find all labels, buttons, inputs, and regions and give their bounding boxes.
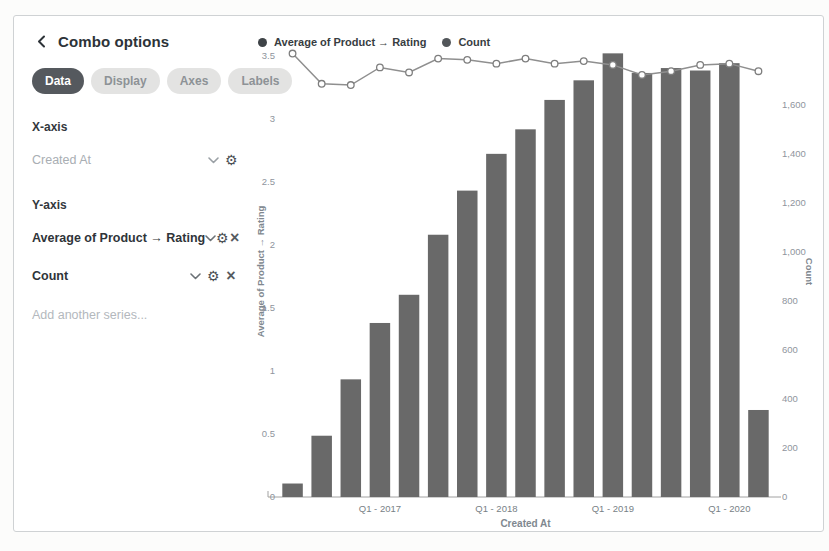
x-axis-tick: Q1 - 2018	[475, 503, 517, 514]
x-axis-tick: Q1 - 2019	[592, 503, 634, 514]
x-axis-field-value: Created At	[32, 153, 204, 167]
bar[interactable]	[399, 295, 420, 497]
legend-dot-icon	[442, 38, 451, 47]
line-marker[interactable]	[435, 55, 442, 62]
line-marker[interactable]	[726, 60, 733, 67]
right-axis-tick: 0	[782, 491, 787, 502]
bar[interactable]	[719, 63, 740, 497]
bar[interactable]	[515, 129, 536, 497]
left-axis-tick: 1	[270, 365, 275, 376]
right-axis-tick: 1,400	[782, 148, 806, 159]
sidebar-title: Combo options	[58, 33, 169, 50]
bar[interactable]	[690, 71, 711, 497]
line-marker[interactable]	[493, 60, 500, 67]
tab-display[interactable]: Display	[91, 68, 160, 94]
combo-options-sidebar: Combo options Data Display Axes Labels X…	[14, 16, 254, 531]
back-chevron-icon	[32, 32, 50, 50]
series-name: Average of Product → Rating	[32, 231, 205, 245]
bar[interactable]	[341, 379, 362, 497]
series-name: Count	[32, 269, 186, 283]
left-axis-tick: 0	[270, 491, 275, 502]
line-marker[interactable]	[551, 60, 558, 67]
tab-axes[interactable]: Axes	[167, 68, 222, 94]
right-axis-tick: 600	[782, 344, 798, 355]
line-marker[interactable]	[755, 68, 762, 75]
x-axis-tick: Q1 - 2020	[708, 503, 750, 514]
chevron-down-icon[interactable]	[186, 267, 204, 285]
legend-item-count[interactable]: Count	[442, 36, 490, 48]
bar[interactable]	[603, 53, 624, 497]
left-axis-tick: 2	[270, 239, 275, 250]
line-marker[interactable]	[406, 69, 413, 76]
bar[interactable]	[661, 68, 682, 497]
bar[interactable]	[632, 73, 653, 497]
y-axis-section-label: Y-axis	[32, 198, 244, 212]
left-axis-tick: 0.5	[262, 428, 275, 439]
y-axis-series-row[interactable]: Count ⚙ ×	[32, 264, 244, 288]
line-marker[interactable]	[347, 82, 354, 89]
bar[interactable]	[573, 80, 594, 497]
bar[interactable]	[370, 323, 391, 497]
line-marker[interactable]	[289, 50, 296, 57]
right-axis-title: Count	[804, 258, 815, 286]
bar[interactable]	[282, 484, 303, 497]
legend-item-rating[interactable]: Average of Product → Rating	[258, 36, 426, 48]
legend-label: Average of Product → Rating	[274, 36, 426, 48]
tab-data[interactable]: Data	[32, 68, 84, 94]
line-marker[interactable]	[639, 72, 646, 79]
combo-chart: Average of Product → Rating Count 00.511…	[254, 16, 825, 533]
remove-series-icon[interactable]: ×	[222, 267, 240, 285]
x-axis-title: Created At	[500, 518, 551, 529]
line-marker[interactable]	[522, 55, 529, 62]
bar[interactable]	[428, 235, 449, 497]
line-marker[interactable]	[580, 58, 587, 65]
y-axis-series-row[interactable]: Average of Product → Rating ⚙ ×	[32, 226, 244, 250]
right-axis-tick: 400	[782, 393, 798, 404]
right-axis-tick: 200	[782, 442, 798, 453]
line-marker[interactable]	[377, 64, 384, 71]
left-axis-tick: 2.5	[262, 176, 275, 187]
line-marker[interactable]	[318, 80, 325, 87]
x-axis-field-picker[interactable]: Created At ⚙	[32, 148, 244, 172]
legend-label: Count	[458, 36, 490, 48]
bar[interactable]	[544, 100, 565, 497]
chevron-down-icon[interactable]	[204, 151, 222, 169]
settings-tabs: Data Display Axes Labels	[32, 68, 244, 94]
line-marker[interactable]	[610, 62, 617, 69]
right-axis-tick: 800	[782, 295, 798, 306]
viz-settings-card: Combo options Data Display Axes Labels X…	[13, 15, 824, 532]
right-axis-tick: 1,600	[782, 99, 806, 110]
bar[interactable]	[486, 154, 507, 497]
bar[interactable]	[748, 410, 769, 497]
right-axis-tick: 1,200	[782, 197, 806, 208]
x-axis-tick: Q1 - 2017	[359, 503, 401, 514]
chevron-down-icon[interactable]	[205, 229, 216, 247]
back-button[interactable]: Combo options	[32, 32, 244, 50]
left-axis-title: Average of Product → Rating	[255, 205, 266, 337]
bar[interactable]	[457, 191, 478, 497]
right-axis-tick: 1,000	[782, 246, 806, 257]
x-axis-section-label: X-axis	[32, 120, 244, 134]
line-marker[interactable]	[668, 68, 675, 75]
chart-legend: Average of Product → Rating Count	[258, 36, 490, 48]
legend-dot-icon	[258, 38, 267, 47]
left-axis-tick: 3.5	[262, 50, 275, 61]
bar[interactable]	[311, 436, 331, 497]
gear-icon[interactable]: ⚙	[204, 267, 222, 285]
gear-icon[interactable]: ⚙	[216, 229, 229, 247]
add-another-series-button[interactable]: Add another series...	[32, 308, 244, 322]
chart-canvas: 00.511.522.533.502004006008001,0001,2001…	[254, 16, 825, 533]
gear-icon[interactable]: ⚙	[222, 151, 240, 169]
remove-series-icon[interactable]: ×	[229, 229, 240, 247]
line-marker[interactable]	[697, 62, 704, 69]
line-marker[interactable]	[464, 57, 471, 64]
left-axis-tick: 3	[270, 113, 275, 124]
